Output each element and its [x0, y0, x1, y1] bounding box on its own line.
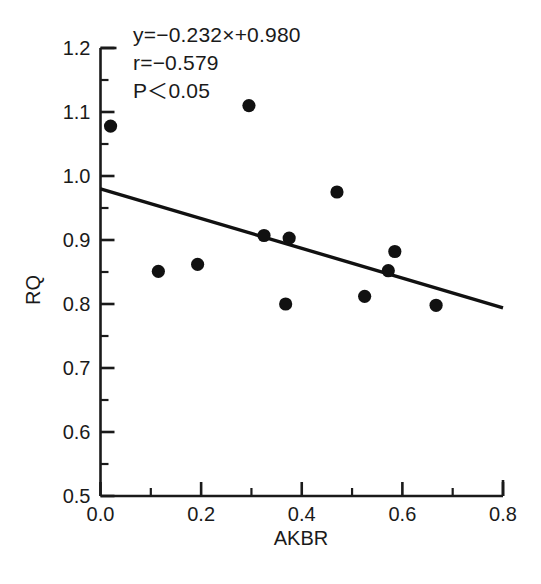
data-point [104, 119, 117, 132]
data-point [429, 299, 442, 312]
data-point [152, 265, 165, 278]
x-tick-label: 0.6 [388, 503, 416, 525]
y-axis-title: RQ [22, 275, 44, 305]
y-tick-label: 0.8 [63, 293, 91, 315]
x-axis-title: AKBR [274, 527, 328, 549]
regression-line [101, 189, 504, 308]
x-tick-labels: 0.00.20.40.60.8 [87, 503, 517, 525]
y-tick-label: 1.2 [63, 37, 91, 59]
data-point [358, 290, 371, 303]
data-point [382, 264, 395, 277]
data-point [279, 297, 292, 310]
significance-annotation: P＜0.05 [133, 79, 210, 102]
correlation-annotation: r=−0.579 [133, 51, 219, 74]
data-point [191, 258, 204, 271]
equation-annotation: y=−0.232×+0.980 [133, 23, 301, 46]
data-point [257, 229, 270, 242]
x-tick-label: 0.2 [187, 503, 215, 525]
y-tick-labels: 0.50.60.70.80.91.01.11.2 [63, 37, 91, 507]
plot-canvas: 0.50.60.70.80.91.01.11.2 0.00.20.40.60.8… [0, 0, 541, 584]
y-tick-label: 1.0 [63, 165, 91, 187]
data-point [330, 185, 343, 198]
y-tick-label: 0.7 [63, 357, 91, 379]
x-tick-label: 0.0 [87, 503, 115, 525]
y-tick-label: 0.9 [63, 229, 91, 251]
data-point [283, 231, 296, 244]
y-tick-label: 0.6 [63, 421, 91, 443]
scatter-figure: 0.50.60.70.80.91.01.11.2 0.00.20.40.60.8… [0, 0, 541, 584]
x-tick-label: 0.8 [489, 503, 517, 525]
regression-line-segment [101, 189, 504, 308]
data-point [388, 245, 401, 258]
x-tick-label: 0.4 [288, 503, 316, 525]
data-point [242, 99, 255, 112]
y-tick-label: 1.1 [63, 101, 91, 123]
